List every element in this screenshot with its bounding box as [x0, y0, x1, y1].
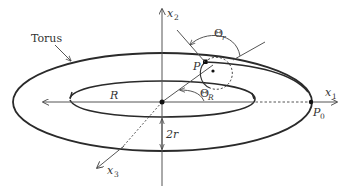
x2-axis-sub: 2: [174, 13, 179, 22]
inner-right-hook: [252, 93, 254, 99]
theta-r-sub: r: [222, 33, 226, 42]
point-P0: [309, 100, 313, 104]
R-label: R: [109, 89, 118, 102]
tangent-line-right: [233, 42, 265, 60]
x1-axis-sub: 1: [332, 92, 337, 101]
x3-axis-label: x: [107, 164, 114, 177]
2r-label: 2r: [165, 128, 179, 141]
torus-leader-arrow: [55, 45, 71, 61]
x3-axis-dashed: [120, 102, 162, 150]
x3-axis-sub: 3: [114, 170, 119, 179]
inner-left-hook: [70, 92, 72, 99]
P-label: P: [192, 60, 201, 73]
x1-axis-label: x: [325, 86, 332, 99]
tangent-line-left: [177, 30, 205, 62]
tube-circle-solid: [200, 62, 210, 88]
origin-point: [160, 100, 165, 105]
tube-center-point: [211, 69, 214, 72]
torus-diagram: Torus x 2 x 1 x 3 R 2r P P 0 Θ r Θ R: [0, 0, 347, 194]
torus-label: Torus: [31, 32, 62, 45]
x2-axis-label: x: [167, 7, 174, 20]
theta-R-sub: R: [207, 93, 214, 102]
P0-sub: 0: [320, 112, 325, 121]
